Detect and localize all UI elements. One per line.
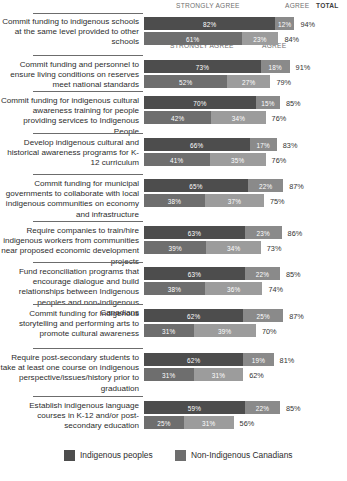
bar-segment-strongly-agree: 65% xyxy=(144,179,248,192)
segment-value-label: 39% xyxy=(194,327,256,334)
stacked-bar: 70%15%85% xyxy=(144,96,347,109)
bar-segment-strongly-agree: 31% xyxy=(144,324,194,337)
bar-segment-agree: 31% xyxy=(184,416,234,429)
stacked-bar-chart: STRONGLY AGREE AGREE TOTAL STRONGLY AGRE… xyxy=(0,0,347,481)
bar-segment-strongly-agree: 42% xyxy=(144,111,211,124)
bar-total-label: 70% xyxy=(262,326,277,335)
bar-total-label: 56% xyxy=(240,418,255,427)
row-bars: 65%22%87%38%37%75% xyxy=(144,179,347,209)
bar-segment-strongly-agree: 38% xyxy=(144,282,205,295)
legend-label: Indigenous peoples xyxy=(80,450,153,460)
bar-total-label: 87% xyxy=(289,311,304,320)
bar-segment-strongly-agree: 59% xyxy=(144,401,245,414)
bar-segment-strongly-agree: 61% xyxy=(144,32,242,45)
bar-segment-agree: 25% xyxy=(243,309,283,322)
stacked-bar: 38%36%74% xyxy=(144,282,347,295)
segment-value-label: 31% xyxy=(184,419,234,426)
bar-segment-agree: 35% xyxy=(210,153,266,166)
bar-total-label: 76% xyxy=(272,155,287,164)
bar-segment-agree: 22% xyxy=(248,179,283,192)
bar-segment-agree: 34% xyxy=(211,111,265,124)
stacked-bar: 31%31%62% xyxy=(144,368,347,381)
bar-total-label: 94% xyxy=(300,19,315,28)
bar-segment-agree: 36% xyxy=(205,282,263,295)
row-category-label: Commit funding to indigenous schools at … xyxy=(0,17,139,48)
row-bars: 63%23%86%39%34%73% xyxy=(144,226,347,256)
segment-value-label: 59% xyxy=(144,404,245,411)
stacked-bar: 52%27%79% xyxy=(144,75,347,88)
stacked-bar: 41%35%76% xyxy=(144,153,347,166)
bar-segment-agree: 12% xyxy=(275,17,294,30)
segment-value-label: 35% xyxy=(210,156,266,163)
row-bars: 62%25%87%31%39%70% xyxy=(144,309,347,339)
row-bars: 82%12%94%61%23%84% xyxy=(144,17,347,47)
row-category-label: Establish indigenous language courses in… xyxy=(0,401,139,432)
bar-segment-agree: 34% xyxy=(206,241,260,254)
row-category-label: Require companies to train/hire indigeno… xyxy=(0,226,139,267)
legend-item-non-indigenous-canadians: Non-Indigenous Canadians xyxy=(175,448,293,462)
segment-value-label: 52% xyxy=(144,78,227,85)
segment-value-label: 23% xyxy=(245,229,282,236)
bar-total-label: 79% xyxy=(276,77,291,86)
segment-value-label: 62% xyxy=(144,356,243,363)
row-divider xyxy=(33,174,143,175)
segment-value-label: 31% xyxy=(194,371,244,378)
segment-value-label: 18% xyxy=(261,63,290,70)
bar-segment-strongly-agree: 82% xyxy=(144,17,275,30)
row-bars: 73%18%91%52%27%79% xyxy=(144,60,347,90)
row-category-label: Commit funding for indigenous cultural a… xyxy=(0,96,139,137)
segment-value-label: 73% xyxy=(144,63,261,70)
bar-total-label: 75% xyxy=(270,196,285,205)
segment-value-label: 65% xyxy=(144,182,248,189)
stacked-bar: 62%25%87% xyxy=(144,309,347,322)
row-divider xyxy=(33,133,143,134)
segment-value-label: 61% xyxy=(144,35,242,42)
bar-segment-agree: 22% xyxy=(245,401,280,414)
bar-segment-agree: 23% xyxy=(245,226,282,239)
row-divider xyxy=(33,55,143,56)
row-category-label: Require post-secondary students to take … xyxy=(0,353,139,394)
header-strongly-agree: STRONGLY AGREE xyxy=(176,2,240,9)
stacked-bar: 65%22%87% xyxy=(144,179,347,192)
stacked-bar: 25%31%56% xyxy=(144,416,347,429)
segment-value-label: 27% xyxy=(227,78,270,85)
row-bars: 62%19%81%31%31%62% xyxy=(144,353,347,383)
segment-value-label: 63% xyxy=(144,229,245,236)
row-bars: 66%17%83%41%35%76% xyxy=(144,138,347,168)
segment-value-label: 12% xyxy=(275,20,294,27)
segment-value-label: 34% xyxy=(206,244,260,251)
stacked-bar: 59%22%85% xyxy=(144,401,347,414)
row-divider xyxy=(33,348,143,349)
segment-value-label: 38% xyxy=(144,285,205,292)
bar-segment-strongly-agree: 62% xyxy=(144,309,243,322)
bar-segment-agree: 19% xyxy=(243,353,273,366)
stacked-bar: 73%18%91% xyxy=(144,60,347,73)
row-divider xyxy=(33,304,143,305)
segment-value-label: 41% xyxy=(144,156,210,163)
bar-segment-strongly-agree: 73% xyxy=(144,60,261,73)
stacked-bar: 42%34%76% xyxy=(144,111,347,124)
segment-value-label: 38% xyxy=(144,197,205,204)
bar-segment-strongly-agree: 25% xyxy=(144,416,184,429)
bar-segment-agree: 31% xyxy=(194,368,244,381)
bar-total-label: 85% xyxy=(286,269,301,278)
bar-segment-strongly-agree: 63% xyxy=(144,267,245,280)
bar-segment-strongly-agree: 63% xyxy=(144,226,245,239)
segment-value-label: 66% xyxy=(144,141,250,148)
segment-value-label: 36% xyxy=(205,285,263,292)
bar-total-label: 86% xyxy=(288,228,303,237)
segment-value-label: 42% xyxy=(144,114,211,121)
segment-value-label: 31% xyxy=(144,327,194,334)
row-category-label: Commit funding for indigenous storytelli… xyxy=(0,309,139,340)
row-divider xyxy=(33,13,143,14)
row-bars: 70%15%85%42%34%76% xyxy=(144,96,347,126)
segment-value-label: 62% xyxy=(144,312,243,319)
header-total: TOTAL xyxy=(316,2,339,9)
bar-total-label: 87% xyxy=(289,181,304,190)
bar-segment-strongly-agree: 39% xyxy=(144,241,206,254)
stacked-bar: 61%23%84% xyxy=(144,32,347,45)
bar-segment-strongly-agree: 38% xyxy=(144,194,205,207)
stacked-bar: 39%34%73% xyxy=(144,241,347,254)
segment-value-label: 19% xyxy=(243,356,273,363)
bar-total-label: 62% xyxy=(249,370,264,379)
